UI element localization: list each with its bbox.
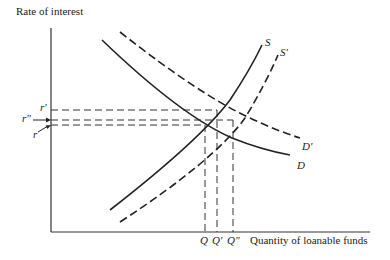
curve-label-d-prime: D' [302, 140, 312, 152]
quantity-label-q-prime: Q' [212, 234, 222, 246]
x-axis-label: Quantity of loanable funds [250, 234, 368, 246]
rate-label-r: r [33, 128, 37, 140]
curve-label-d: D [297, 159, 305, 171]
r-double-arrowhead [46, 118, 51, 123]
curve-label-s-prime: S' [280, 46, 288, 58]
rate-label-r-double: r" [22, 112, 31, 124]
rate-label-r-prime: r' [40, 101, 47, 113]
supply-curve-s-prime [120, 55, 278, 222]
quantity-label-q: Q [200, 234, 208, 246]
y-axis-label: Rate of interest [16, 5, 83, 17]
quantity-label-q-double: Q" [227, 234, 240, 246]
supply-curve-s [110, 45, 262, 210]
curve-label-s: S [265, 36, 271, 48]
loanable-funds-diagram [0, 0, 390, 260]
